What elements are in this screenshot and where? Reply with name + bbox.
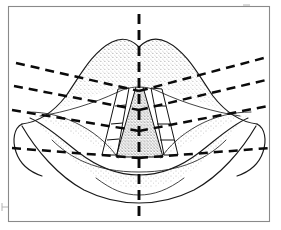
figure-canvas (0, 0, 281, 230)
surgical-diagram (0, 0, 281, 230)
